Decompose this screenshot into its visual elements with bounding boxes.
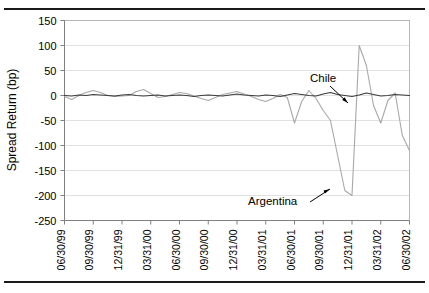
figure-container: 150100500-50-100-150-200-250 06/30/9909/… (0, 0, 429, 293)
x-tick-label: 06/30/99 (55, 229, 67, 270)
annotation-label-argentina: Argentina (248, 195, 298, 207)
y-tick-group: 150100500-50-100-150-200-250 (34, 15, 64, 227)
y-tick-label: -200 (34, 190, 56, 202)
y-tick-label: -250 (34, 215, 56, 227)
x-tick-label: 09/30/00 (198, 229, 210, 270)
x-tick-label: 06/30/00 (170, 229, 182, 270)
x-tick-group: 06/30/9909/30/9912/31/9903/31/0006/30/00… (55, 221, 412, 271)
x-tick-label: 12/31/99 (112, 229, 124, 270)
x-tick-label: 12/31/01 (342, 229, 354, 270)
y-tick-label: -150 (34, 165, 56, 177)
y-tick-label: 100 (38, 40, 56, 52)
y-tick-label: 50 (44, 65, 56, 77)
y-tick-label: -100 (34, 140, 56, 152)
bottom-horizontal-rule (4, 281, 425, 283)
y-axis-title: Spread Return (bp) (5, 69, 19, 172)
y-tick-label: -50 (41, 115, 57, 127)
x-tick-label: 09/30/99 (83, 229, 95, 270)
x-tick-label: 03/31/01 (256, 229, 268, 270)
x-tick-label: 09/30/01 (313, 229, 325, 270)
y-tick-label: 0 (50, 90, 56, 102)
x-tick-label: 12/31/00 (227, 229, 239, 270)
x-tick-label: 03/31/00 (141, 229, 153, 270)
annotation-label-chile: Chile (310, 72, 336, 84)
x-tick-label: 03/31/02 (371, 229, 383, 270)
x-tick-label: 06/30/01 (285, 229, 297, 270)
y-tick-label: 150 (38, 15, 56, 27)
x-tick-label: 06/30/02 (400, 229, 412, 270)
line-chart-svg: 150100500-50-100-150-200-250 06/30/9909/… (0, 14, 429, 276)
chart-plot-area: 150100500-50-100-150-200-250 06/30/9909/… (0, 14, 429, 276)
top-horizontal-rule (4, 8, 425, 10)
